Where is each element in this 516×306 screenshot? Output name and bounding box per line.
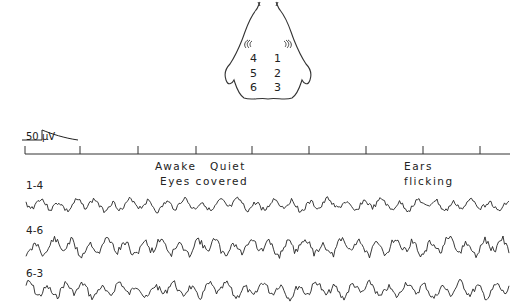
- time-axis: [0, 140, 516, 160]
- head-outline-icon: [218, 0, 318, 104]
- electrode-label: 1: [274, 52, 281, 65]
- annotation-label: Awake: [155, 160, 196, 172]
- electrode-label: 3: [274, 81, 281, 94]
- eeg-waveform: [0, 185, 516, 225]
- electrode-label: 6: [250, 81, 257, 94]
- electrode-label: 5: [250, 67, 257, 80]
- annotation-label: Quiet: [210, 160, 246, 172]
- head-diagram: [218, 0, 318, 104]
- electrode-label: 4: [250, 52, 257, 65]
- electrode-label: 2: [274, 67, 281, 80]
- eeg-waveform: [0, 227, 516, 267]
- eeg-waveform: [0, 270, 516, 306]
- annotation-label: Ears: [404, 160, 433, 172]
